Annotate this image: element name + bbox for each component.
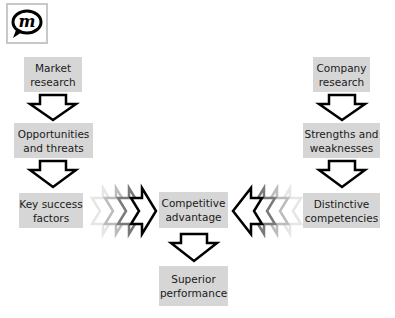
down-arrow-icon (319, 161, 365, 187)
down-arrow-icon (30, 95, 76, 120)
right-chevron-arrows (92, 188, 156, 234)
down-arrow-icon (171, 234, 217, 261)
down-arrow-icon (319, 95, 365, 120)
left-chevron-arrows (233, 188, 301, 234)
down-arrow-icon (30, 161, 76, 187)
arrows-layer (0, 0, 395, 318)
